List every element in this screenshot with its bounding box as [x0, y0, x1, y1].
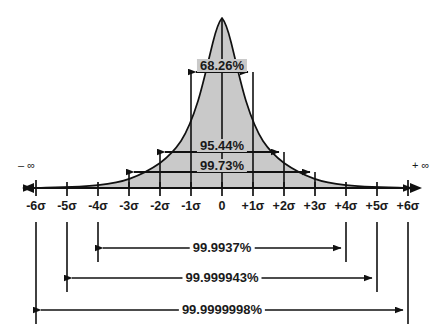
- tick-label-m1: -1σ: [181, 200, 201, 213]
- tick-label-p2: +2σ: [273, 200, 296, 213]
- coverage-label-6sigma: 99.9999998%: [179, 303, 265, 316]
- axis-arrow-right-icon: [410, 183, 422, 193]
- coverage-label-3sigma: 99.73%: [197, 159, 247, 172]
- coverage-label-4sigma: 99.9937%: [190, 241, 255, 254]
- tick-label-m3: -3σ: [119, 200, 139, 213]
- normal-distribution-figure: – ∞ + ∞ -6σ -5σ -4σ -3σ -2σ -1σ 0 +1σ +2…: [0, 0, 444, 334]
- pos-infinity-label: + ∞: [412, 160, 429, 171]
- neg-infinity-label: – ∞: [18, 160, 35, 171]
- tick-label-p5: +5σ: [366, 200, 389, 213]
- axis-arrow-left-icon: [22, 183, 34, 193]
- tick-label-p3: +3σ: [304, 200, 327, 213]
- coverage-label-1sigma: 68.26%: [197, 59, 247, 72]
- tick-label-m6: -6σ: [26, 200, 46, 213]
- tick-label-p6: +6σ: [397, 200, 420, 213]
- tick-label-m5: -5σ: [57, 200, 77, 213]
- tick-label-p1: +1σ: [242, 200, 265, 213]
- tick-label-m2: -2σ: [150, 200, 170, 213]
- tick-label-0: 0: [219, 200, 226, 213]
- tick-label-p4: +4σ: [335, 200, 358, 213]
- coverage-label-2sigma: 95.44%: [197, 139, 247, 152]
- coverage-label-5sigma: 99.999943%: [182, 271, 261, 284]
- tick-label-m4: -4σ: [88, 200, 108, 213]
